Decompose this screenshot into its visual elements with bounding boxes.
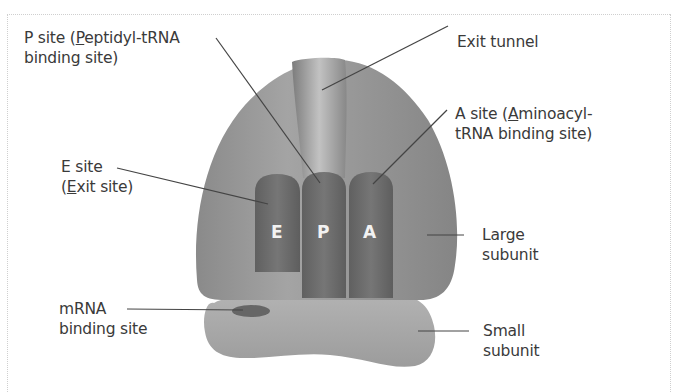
large-subunit-label: Large subunit [482,225,538,265]
mrna-binding-site-label: mRNA binding site [59,299,147,339]
p-site-letter: P [317,222,329,242]
mrna-site-shape [232,305,270,317]
small-subunit-label: Small subunit [483,321,539,361]
e-site-letter: E [271,222,283,242]
e-site-label: E site (Exit site) [61,157,133,197]
exit-tunnel-label: Exit tunnel [457,32,538,52]
p-site-label: P site (Peptidyl-tRNA binding site) [24,28,180,68]
a-site-letter: A [363,222,376,242]
a-site-label: A site (Aminoacyl- tRNA binding site) [455,104,592,144]
